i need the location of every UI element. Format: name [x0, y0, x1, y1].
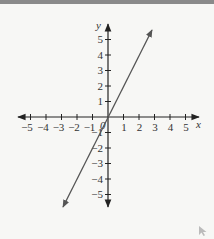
svg-text:2: 2: [98, 80, 104, 92]
svg-text:2: 2: [137, 121, 143, 133]
svg-text:3: 3: [98, 64, 104, 76]
svg-text:5: 5: [183, 121, 189, 133]
svg-text:−4: −4: [37, 121, 49, 133]
svg-text:−5: −5: [91, 188, 103, 200]
origin-label: 0: [100, 119, 106, 131]
coordinate-plane: −5 −4 −3 −2 −1 1 2 3 4 5 5 4 3 2 1 −1 −2…: [0, 0, 214, 239]
svg-text:3: 3: [152, 121, 158, 133]
svg-text:−2: −2: [68, 121, 80, 133]
svg-text:5: 5: [98, 33, 104, 45]
svg-text:4: 4: [168, 121, 174, 133]
y-axis-label: y: [95, 19, 101, 31]
x-axis-label: x: [195, 118, 201, 130]
mouse-cursor-icon: [199, 226, 207, 236]
svg-text:−4: −4: [91, 173, 103, 185]
svg-text:1: 1: [121, 121, 127, 133]
svg-text:1: 1: [98, 95, 104, 107]
svg-text:−3: −3: [91, 157, 103, 169]
svg-text:4: 4: [98, 49, 104, 61]
svg-text:−3: −3: [53, 121, 65, 133]
svg-text:−5: −5: [21, 121, 33, 133]
